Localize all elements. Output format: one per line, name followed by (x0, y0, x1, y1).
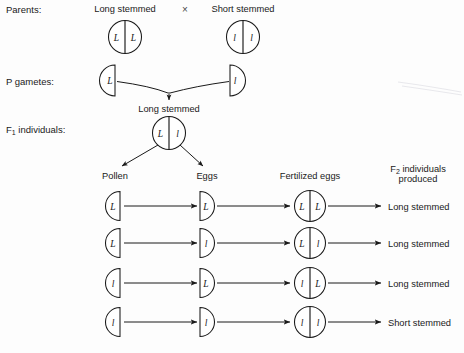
f1-phenotype-label: Long stemmed (138, 104, 200, 114)
column-header-eggs: Eggs (196, 171, 218, 181)
gamete-fusion-connector (117, 82, 229, 101)
zygote-allele-2: L (314, 278, 320, 289)
cross-symbol: × (182, 4, 188, 15)
cross-row: l l l l Short stemmed (105, 307, 451, 338)
pollen-cell: l (105, 308, 120, 337)
zygote-cell: L l (295, 228, 326, 259)
parent-left-allele-2: L (130, 32, 136, 43)
p-gamete-right-allele: l (234, 75, 237, 86)
cross-diagram-canvas: Parents: P gametes: F1 individuals: Long… (0, 0, 464, 353)
row-label-f1-individuals: F1 individuals: (6, 124, 65, 136)
row-label-parents: Parents: (6, 4, 41, 15)
zygote-allele-1: L (298, 201, 304, 212)
parent-left-allele-1: L (113, 32, 119, 43)
pollen-cell: l (105, 269, 120, 298)
parent-right-phenotype: Short stemmed (211, 4, 274, 14)
zygote-cell: L L (295, 191, 326, 222)
zygote-allele-2: l (317, 238, 320, 249)
pollen-allele: L (109, 238, 115, 249)
row-label-p-gametes: P gametes: (6, 76, 54, 87)
scan-artifact (398, 82, 462, 95)
zygote-allele-1: l (301, 317, 304, 328)
zygote-allele-2: l (317, 317, 320, 328)
parent-left-phenotype: Long stemmed (94, 4, 156, 14)
parent-left-cell: L L (109, 21, 142, 54)
egg-allele: L (202, 201, 208, 212)
egg-cell: l (200, 229, 215, 258)
parent-right-allele-1: l (233, 32, 236, 43)
p-gamete-left: L (99, 65, 115, 96)
pollen-allele: l (112, 278, 115, 289)
pollen-cell: L (105, 192, 120, 221)
egg-cell: l (200, 308, 215, 337)
egg-allele: l (205, 317, 208, 328)
zygote-allele-2: L (314, 201, 320, 212)
zygote-cell: l L (295, 268, 326, 299)
column-header-pollen: Pollen (102, 171, 128, 181)
f2-phenotype: Long stemmed (388, 279, 450, 289)
egg-allele: L (202, 278, 208, 289)
cross-row: L L L L Long stemmed (105, 191, 449, 222)
column-header-f2-line2: produced (399, 174, 438, 184)
cross-row: l L l L Long stemmed (105, 268, 449, 299)
zygote-cell: l l (295, 307, 326, 338)
egg-cell: L (200, 269, 215, 298)
f2-phenotype: Long stemmed (388, 202, 450, 212)
parent-right-allele-2: l (250, 32, 253, 43)
f2-phenotype: Short stemmed (388, 318, 451, 328)
cross-row: L l L l Long stemmed (105, 228, 449, 259)
column-header-fertilized-eggs: Fertilized eggs (280, 171, 341, 181)
zygote-allele-1: L (298, 238, 304, 249)
pollen-allele: L (109, 201, 115, 212)
f1-allele-1: L (157, 128, 163, 139)
f2-phenotype: Long stemmed (388, 239, 450, 249)
zygote-allele-1: l (301, 278, 304, 289)
f1-allele-2: l (176, 128, 179, 139)
parent-right-cell: l l (227, 21, 260, 54)
pollen-cell: L (105, 229, 120, 258)
egg-cell: L (200, 192, 215, 221)
egg-allele: l (205, 238, 208, 249)
p-gamete-left-allele: L (106, 75, 112, 86)
f1-cell: L l (153, 117, 186, 150)
pollen-allele: l (112, 317, 115, 328)
monohybrid-cross-figure: Parents: P gametes: F1 individuals: Long… (0, 0, 464, 353)
p-gamete-right: l (230, 65, 245, 96)
